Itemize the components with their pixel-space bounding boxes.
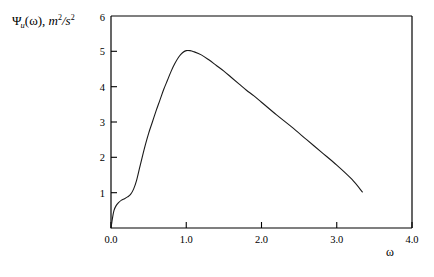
y-tick-label-2: 2 [100,152,105,163]
y-tick-label-3: 3 [100,117,105,128]
axes-frame [111,16,412,228]
x-tick-label-0: 0.0 [104,234,117,245]
y-axis-ticks [111,51,117,192]
x-axis-label: ω [386,246,394,258]
x-tick-label-3: 3.0 [330,234,343,245]
y-tick-label-4: 4 [100,82,106,93]
chart-figure: Ψu(ω), m2/s2 1 2 3 4 5 6 [0,0,434,277]
x-tick-label-1: 1.0 [180,234,193,245]
plot-canvas: 1 2 3 4 5 6 0.0 1.0 2.0 3.0 4.0 [0,0,434,277]
x-tick-label-4: 4.0 [405,234,418,245]
x-tick-label-2: 2.0 [255,234,268,245]
y-tick-label-6: 6 [100,12,105,23]
y-tick-label-1: 1 [100,188,105,199]
y-tick-label-5: 5 [100,46,105,57]
y-axis-tick-labels: 1 2 3 4 5 6 [100,12,106,199]
x-axis-ticks [111,222,412,228]
spectral-density-curve [111,50,362,228]
x-axis-tick-labels: 0.0 1.0 2.0 3.0 4.0 [104,234,418,245]
